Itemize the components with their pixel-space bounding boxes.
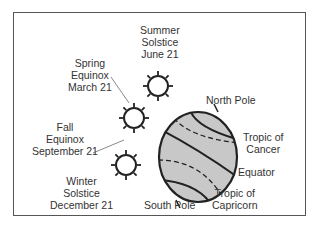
north-pole-label: North Pole [206,94,256,106]
summer-solstice-label: Summer Solstice June 21 [140,24,180,60]
equator-label: Equator [238,166,275,178]
tropic-of-cancer-label: Tropic of Cancer [243,131,283,155]
spring-equinox-label: Spring Equinox March 21 [68,57,112,93]
equinox-sun-icon [119,103,149,133]
summer-sun-icon [143,71,173,101]
south-pole-label: South Pole [144,199,195,211]
spring-leader-line [111,77,129,103]
winter-sun-icon [111,150,141,180]
tropic-of-capricorn-label: Tropic of Capricorn [212,187,258,211]
winter-solstice-label: Winter Solstice December 21 [50,175,113,211]
fall-equinox-label: Fall Equinox September 21 [32,121,98,157]
